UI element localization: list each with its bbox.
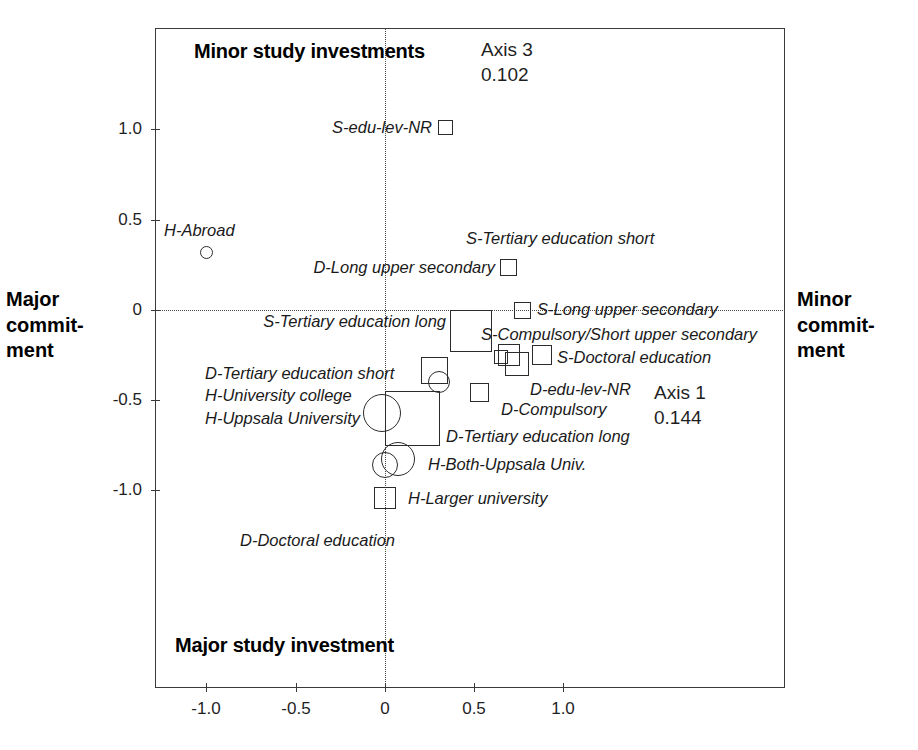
x-tick-mark <box>206 683 207 692</box>
x-tick-label: 0 <box>350 699 420 719</box>
marker-h-university-college <box>428 371 450 393</box>
marker-h-abroad <box>200 246 213 259</box>
x-tick-label: -0.5 <box>261 699 331 719</box>
label-h-larger-university: H-Larger university <box>408 490 547 507</box>
top-banner-minor-study-investments: Minor study investments <box>194 40 425 63</box>
y-tick-label: 0.5 <box>72 210 142 230</box>
label-s-doctoral-education: S-Doctoral education <box>557 349 711 366</box>
label-h-abroad: H-Abroad <box>164 222 235 239</box>
marker-h-larger-university <box>374 487 396 509</box>
y-tick-mark <box>151 400 160 401</box>
y-tick-label: -1.0 <box>72 480 142 500</box>
label-h-uppsala-university: H-Uppsala University <box>205 410 360 427</box>
y-tick-mark <box>151 129 160 130</box>
label-h-university-college: H-University college <box>205 387 352 404</box>
marker-small-square-left <box>470 383 489 402</box>
right-caption-minor-commitment: Minor commit- ment <box>797 287 875 364</box>
marker-h-uppsala-university <box>363 394 401 432</box>
marker-h-both-uppsala-univ-secondary <box>372 452 398 478</box>
y-tick-label: -0.5 <box>72 390 142 410</box>
axis-3-inertia-note: Axis 3 0.102 <box>481 38 533 87</box>
label-d-edu-lev-nr: D-edu-lev-NR <box>530 381 631 398</box>
label-d-long-upper-secondary: D-Long upper secondary <box>313 259 495 276</box>
marker-d-long-upper-secondary <box>500 259 517 276</box>
marker-s-doctoral-education <box>532 345 552 365</box>
label-s-long-upper-secondary: S-Long upper secondary <box>537 301 718 318</box>
bottom-banner-major-study-investment: Major study investment <box>175 634 394 657</box>
x-tick-mark <box>563 683 564 692</box>
axis-1-inertia-note: Axis 1 0.144 <box>654 381 706 430</box>
label-d-tertiary-education-long: D-Tertiary education long <box>446 428 630 445</box>
y-tick-mark <box>151 310 160 311</box>
marker-d-edu-lev-nr <box>505 352 529 376</box>
x-tick-label: 1.0 <box>528 699 598 719</box>
x-tick-mark <box>385 683 386 692</box>
label-s-tertiary-education-short: S-Tertiary education short <box>466 230 654 247</box>
label-s-edu-lev-nr: S-edu-lev-NR <box>332 119 432 136</box>
x-tick-mark <box>296 683 297 692</box>
y-tick-mark <box>151 490 160 491</box>
x-tick-mark <box>474 683 475 692</box>
label-h-both-uppsala-univ: H-Both-Uppsala Univ. <box>428 456 586 473</box>
y-tick-mark <box>151 220 160 221</box>
x-tick-label: 0.5 <box>439 699 509 719</box>
y-tick-label: 1.0 <box>72 119 142 139</box>
label-s-tertiary-education-long: S-Tertiary education long <box>263 313 446 330</box>
label-d-compulsory: D-Compulsory <box>501 401 606 418</box>
marker-d-compulsory <box>494 350 508 364</box>
x-tick-label: -1.0 <box>171 699 241 719</box>
label-d-doctoral-education: D-Doctoral education <box>240 532 395 549</box>
marker-s-long-upper-secondary <box>514 302 531 319</box>
marker-s-edu-lev-nr <box>438 120 453 135</box>
label-s-compulsory-short-upper-secondary: S-Compulsory/Short upper secondary <box>481 326 757 343</box>
label-d-tertiary-education-short: D-Tertiary education short <box>205 365 394 382</box>
correspondence-analysis-figure: -1.0 -0.5 0 0.5 1.0 1.0 0.5 0 -0.5 -1.0 … <box>0 0 918 750</box>
left-caption-major-commitment: Major commit- ment <box>6 287 84 364</box>
